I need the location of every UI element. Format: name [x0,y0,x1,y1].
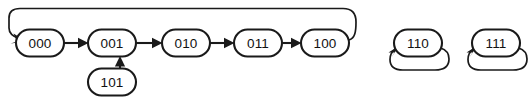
edge-101-to-001-arrowhead [115,56,125,67]
state-transition-diagram: 000 001 010 011 100 101 110 111 [0,0,532,99]
state-node-010-label: 010 [174,36,197,51]
state-node-101[interactable]: 101 [88,69,136,96]
state-node-110-label: 110 [407,36,429,51]
edge-010-to-011 [210,38,235,48]
state-node-010[interactable]: 010 [162,30,210,57]
edge-000-to-001-arrowhead [78,38,89,48]
state-node-011[interactable]: 011 [234,30,282,57]
state-node-000-label: 000 [28,36,51,51]
edge-011-to-100-arrowhead [291,38,302,48]
state-node-100[interactable]: 100 [301,30,349,57]
state-node-001-label: 001 [100,36,123,51]
state-node-100-label: 100 [313,36,336,51]
edge-000-to-001 [64,38,89,48]
state-node-011-label: 011 [247,36,269,51]
edge-001-to-010 [136,38,163,48]
state-node-001[interactable]: 001 [88,30,136,57]
edge-011-to-100 [282,38,302,48]
state-node-000[interactable]: 000 [16,30,64,57]
diagram-canvas: 000 001 010 011 100 101 110 111 [0,0,532,99]
edge-010-to-011-arrowhead [224,38,235,48]
state-node-110[interactable]: 110 [394,30,442,57]
edge-101-to-001 [115,56,125,69]
state-node-111[interactable]: 111 [472,30,520,57]
edge-001-to-010-arrowhead [152,38,163,48]
state-node-101-label: 101 [100,75,123,90]
state-node-111-label: 111 [485,36,506,51]
